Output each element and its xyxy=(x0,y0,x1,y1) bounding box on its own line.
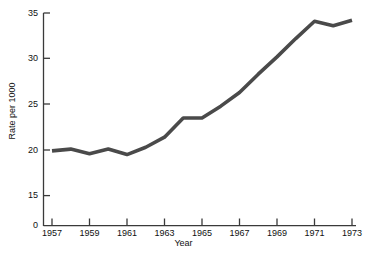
x-tick-marks xyxy=(52,219,352,226)
x-tick-label-1967: 1967 xyxy=(225,228,255,238)
y-axis-title: Rate per 1000 xyxy=(7,66,17,156)
x-tick-label-1959: 1959 xyxy=(75,228,105,238)
line-chart: 35 30 25 20 15 0 1957 1959 1961 1963 196… xyxy=(0,0,367,258)
data-series-line xyxy=(52,20,352,154)
x-tick-label-1973: 1973 xyxy=(337,228,367,238)
x-tick-label-1969: 1969 xyxy=(262,228,292,238)
x-tick-label-1957: 1957 xyxy=(37,228,67,238)
y-tick-label-30: 30 xyxy=(16,53,38,63)
x-axis-title: Year xyxy=(0,238,367,248)
y-tick-label-20: 20 xyxy=(16,145,38,155)
x-tick-label-1963: 1963 xyxy=(150,228,180,238)
y-tick-label-25: 25 xyxy=(16,99,38,109)
y-tick-label-0: 0 xyxy=(16,220,38,230)
y-tick-marks xyxy=(44,13,51,196)
x-tick-label-1965: 1965 xyxy=(187,228,217,238)
x-tick-label-1961: 1961 xyxy=(112,228,142,238)
y-tick-label-35: 35 xyxy=(16,8,38,18)
chart-canvas xyxy=(0,0,367,258)
x-tick-label-1971: 1971 xyxy=(300,228,330,238)
y-tick-label-15: 15 xyxy=(16,190,38,200)
